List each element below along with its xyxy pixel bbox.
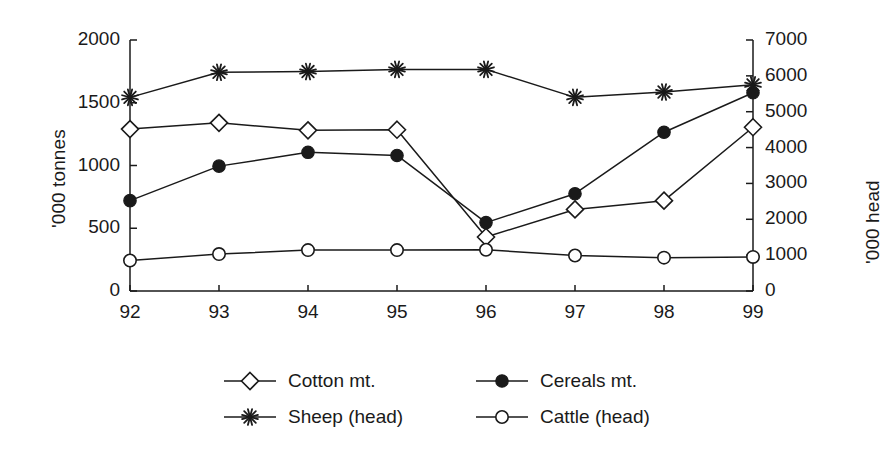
legend-item[interactable]: Sheep (head): [222, 402, 403, 432]
data-point: [745, 119, 762, 136]
legend-marker-filled-circle-icon: [474, 368, 530, 394]
data-point: [122, 121, 139, 138]
x-axis-tick-label: 95: [367, 301, 427, 323]
chart-legend: Cotton mt.Cereals mt.Sheep (head)Cattle …: [222, 366, 692, 438]
data-point: [389, 121, 406, 138]
data-point: [658, 251, 670, 263]
legend-item[interactable]: Cattle (head): [474, 402, 650, 432]
y-axis-left-tick-label: 2000: [44, 28, 120, 50]
data-point: [567, 201, 584, 218]
x-axis-tick-label: 99: [723, 301, 783, 323]
data-point: [480, 244, 492, 256]
y-axis-right-title: '000 head: [862, 180, 884, 264]
data-point: [300, 122, 317, 139]
y-axis-left-tick-label: 1000: [44, 154, 120, 176]
legend-marker-asterisk-icon: [222, 404, 278, 430]
data-point: [391, 149, 403, 161]
series-sheep-head: [122, 61, 761, 105]
y-axis-right-tick-label: 1000: [765, 243, 841, 265]
x-axis-tick-label: 98: [634, 301, 694, 323]
data-point: [124, 194, 136, 206]
data-point: [569, 249, 581, 261]
data-point: [213, 248, 225, 260]
data-point: [569, 188, 581, 200]
x-axis-tick-label: 96: [456, 301, 516, 323]
y-axis-right-tick-label: 6000: [765, 64, 841, 86]
x-axis-tick-label: 93: [189, 301, 249, 323]
legend-key-marker: [496, 375, 508, 387]
y-axis-right-tick-label: 5000: [765, 100, 841, 122]
legend-item[interactable]: Cereals mt.: [474, 366, 637, 396]
data-point: [480, 216, 492, 228]
data-point: [391, 244, 403, 256]
legend-item-label: Cattle (head): [540, 406, 650, 428]
series-line: [130, 123, 753, 237]
y-axis-left-tick-label: 1500: [44, 91, 120, 113]
y-axis-right-tick-label: 2000: [765, 207, 841, 229]
data-point: [658, 126, 670, 138]
x-axis-tick-label: 94: [278, 301, 338, 323]
data-point: [302, 244, 314, 256]
y-axis-right-tick-label: 4000: [765, 136, 841, 158]
legend-item-label: Cotton mt.: [288, 370, 376, 392]
legend-key-marker: [496, 411, 508, 423]
legend-item[interactable]: Cotton mt.: [222, 366, 376, 396]
line-chart-figure: '000 tonnes '000 head 0500100015002000 0…: [0, 0, 889, 453]
legend-item-label: Sheep (head): [288, 406, 403, 428]
data-point: [747, 251, 759, 263]
x-axis-tick-label: 92: [100, 301, 160, 323]
legend-marker-open-diamond-icon: [222, 368, 278, 394]
y-axis-right-tick-label: 0: [765, 279, 841, 301]
legend-item-label: Cereals mt.: [540, 370, 637, 392]
legend-key-marker: [242, 373, 259, 390]
x-axis-tick-label: 97: [545, 301, 605, 323]
data-point: [124, 254, 136, 266]
data-point: [211, 114, 228, 131]
y-axis-left-tick-label: 500: [44, 216, 120, 238]
y-axis-right-tick-label: 7000: [765, 28, 841, 50]
y-axis-left-title: '000 tonnes: [48, 129, 70, 228]
data-point: [302, 146, 314, 158]
data-point: [656, 192, 673, 209]
series-cattle-head: [124, 244, 759, 267]
series-group: [122, 61, 762, 266]
legend-marker-open-circle-icon: [474, 404, 530, 430]
y-axis-left-tick-label: 0: [44, 279, 120, 301]
y-axis-right-tick-label: 3000: [765, 171, 841, 193]
data-point: [213, 160, 225, 172]
